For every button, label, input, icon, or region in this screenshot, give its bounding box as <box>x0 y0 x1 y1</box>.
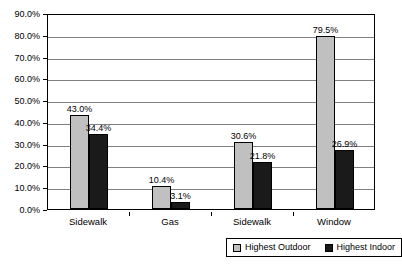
bar-value-label: 26.9% <box>326 140 363 149</box>
legend-swatch-icon <box>325 244 333 252</box>
x-tick-label: Window <box>293 217 375 227</box>
y-tick-label: 10.0% <box>14 184 40 193</box>
x-tick-label: Gas <box>129 217 211 227</box>
legend-label: Highest Outdoor <box>245 243 311 252</box>
plot-area: 43.0%34.4%10.4%3.1%30.6%21.8%79.5%26.9% <box>47 14 375 210</box>
bar <box>316 36 335 209</box>
y-tick-label: 0.0% <box>19 206 40 215</box>
bar-value-label: 30.6% <box>225 132 262 141</box>
y-tick-label: 60.0% <box>14 75 40 84</box>
bar <box>335 150 354 209</box>
bar-value-label: 10.4% <box>143 176 180 185</box>
x-tick-label: Sidewalk <box>47 217 129 227</box>
bar <box>253 162 272 209</box>
legend-entry: Highest Indoor <box>325 243 396 252</box>
x-tick-label: Sidewalk <box>211 217 293 227</box>
bar-value-label: 43.0% <box>61 105 98 114</box>
y-tick-label: 20.0% <box>14 162 40 171</box>
legend-swatch-icon <box>233 244 241 252</box>
legend-label: Highest Indoor <box>337 243 396 252</box>
bar-value-label: 34.4% <box>80 124 117 133</box>
bar-value-label: 3.1% <box>162 192 199 201</box>
y-axis: 0.0%10.0%20.0%30.0%40.0%50.0%60.0%70.0%8… <box>0 0 47 216</box>
y-tick-mark <box>43 210 47 211</box>
y-tick-label: 50.0% <box>14 97 40 106</box>
chart-legend: Highest OutdoorHighest Indoor <box>226 238 402 257</box>
x-axis: SidewalkGasSidewalkWindow <box>47 212 375 232</box>
y-tick-label: 80.0% <box>14 32 40 41</box>
legend-entry: Highest Outdoor <box>233 243 311 252</box>
y-tick-label: 30.0% <box>14 141 40 150</box>
bar <box>171 202 190 209</box>
y-tick-label: 70.0% <box>14 54 40 63</box>
x-tick-mark <box>211 212 212 216</box>
y-tick-label: 90.0% <box>14 10 40 19</box>
x-tick-mark <box>293 212 294 216</box>
bar <box>89 134 108 209</box>
bar-value-label: 21.8% <box>244 152 281 161</box>
x-tick-mark <box>129 212 130 216</box>
bar-value-label: 79.5% <box>307 26 344 35</box>
y-tick-label: 40.0% <box>14 119 40 128</box>
